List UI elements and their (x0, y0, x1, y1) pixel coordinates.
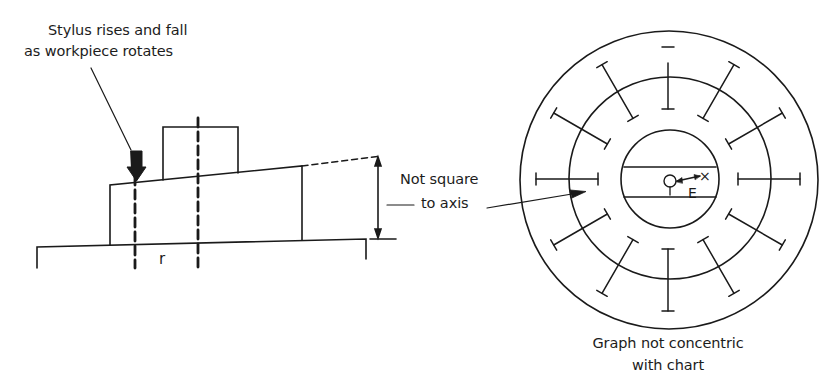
radial-tick-cap-outer (551, 240, 557, 250)
radial-tick-cap-inner (726, 139, 732, 149)
not-square-leader-right (487, 193, 578, 208)
radial-tick-cap-outer (729, 290, 739, 296)
radial-tick-stem (703, 240, 734, 294)
radial-tick-stem (729, 113, 783, 144)
dimension-arrow-up-icon (375, 157, 381, 166)
figure: × E Stylus rises and fall as workpiece r… (0, 0, 837, 392)
radial-tick-stem (729, 214, 783, 245)
radial-tick-cap-inner (604, 139, 610, 149)
slant-extension-dashed (302, 156, 381, 166)
radial-tick-cap-outer (597, 290, 607, 296)
radial-tick-stem (554, 214, 608, 245)
radial-tick-stem (602, 65, 633, 119)
stylus-note-line2: as workpiece rotates (24, 42, 173, 61)
radial-ticks (536, 47, 800, 311)
radial-tick-cap-inner (726, 209, 732, 219)
right-diagram (520, 31, 818, 329)
center-origin-marker (664, 175, 676, 187)
radial-tick-cap-outer (551, 108, 557, 118)
chart-caption-line2: with chart (632, 356, 704, 375)
offset-point-label: × (699, 168, 711, 184)
left-diagram (37, 68, 586, 268)
turntable-base (37, 239, 366, 268)
not-square-arrow-icon (570, 190, 586, 198)
radial-tick-cap-outer (779, 108, 785, 118)
stylus-leader-line (91, 68, 131, 150)
radial-tick-cap-inner (604, 209, 610, 219)
stylus-note-line1: Stylus rises and fall (48, 21, 187, 40)
radial-tick-cap-outer (779, 240, 785, 250)
chart-outer-ring (520, 31, 818, 329)
radial-tick-cap-inner (628, 115, 638, 121)
radial-tick-stem (602, 240, 633, 294)
not-square-label-line1: Not square (400, 170, 478, 189)
dimension-arrow-down-icon (375, 229, 381, 238)
radial-tick-cap-inner (628, 237, 638, 243)
stylus-arrow-icon (127, 151, 146, 181)
eccentricity-label: E (688, 185, 697, 201)
radial-tick-cap-outer (729, 62, 739, 68)
radial-tick-stem (554, 113, 608, 144)
chart-caption-line1: Graph not concentric (592, 334, 743, 353)
radial-tick-stem (703, 65, 734, 119)
radius-label: r (159, 250, 165, 269)
radial-tick-cap-outer (597, 62, 607, 68)
not-square-label-line2: to axis (421, 194, 469, 213)
eccentricity-arrow-left-icon (676, 178, 683, 184)
radial-tick-cap-inner (698, 115, 708, 121)
workpiece-boss (163, 127, 238, 180)
radial-tick-cap-inner (698, 237, 708, 243)
